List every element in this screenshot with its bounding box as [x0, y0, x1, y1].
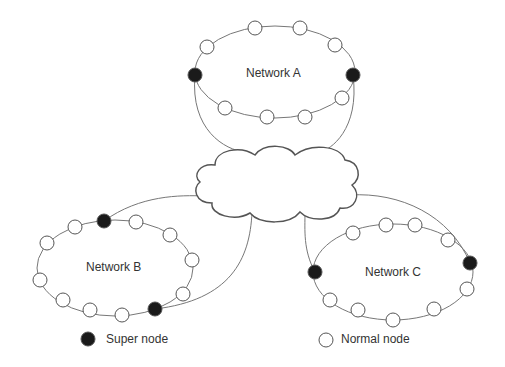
- internet-cloud: [196, 146, 358, 222]
- normal-node: [33, 273, 47, 287]
- super-node: [188, 68, 202, 82]
- super-node: [346, 68, 360, 82]
- normal-node: [248, 21, 262, 35]
- super-node: [97, 214, 111, 228]
- network-b-link: [104, 196, 205, 221]
- network-a-link: [195, 75, 245, 152]
- legend-normal-node-icon: [319, 333, 333, 347]
- super-node: [148, 302, 162, 316]
- normal-node: [298, 110, 312, 124]
- normal-node: [408, 218, 422, 232]
- legend-normal-node-label: Normal node: [341, 332, 410, 346]
- normal-node: [68, 220, 82, 234]
- normal-node: [40, 236, 54, 250]
- normal-node: [176, 287, 190, 301]
- normal-node: [379, 218, 393, 232]
- normal-node: [218, 101, 232, 115]
- legend-super-node-icon: [81, 332, 95, 346]
- normal-node: [351, 303, 365, 317]
- normal-node: [200, 40, 214, 54]
- normal-node: [185, 253, 199, 267]
- normal-node: [129, 215, 143, 229]
- normal-node: [335, 91, 349, 105]
- network-diagram: [0, 0, 505, 367]
- normal-node: [386, 313, 400, 327]
- normal-node: [260, 110, 274, 124]
- legend-super-node-label: Super node: [106, 332, 168, 346]
- normal-node: [323, 293, 337, 307]
- super-node: [308, 265, 322, 279]
- normal-node: [427, 302, 441, 316]
- network-c-link: [305, 212, 315, 272]
- normal-node: [293, 21, 307, 35]
- network-c-label: Network C: [365, 265, 421, 279]
- normal-node: [115, 308, 129, 322]
- normal-node: [56, 293, 70, 307]
- normal-node: [83, 303, 97, 317]
- network-a-link: [320, 75, 354, 152]
- normal-node: [346, 226, 360, 240]
- normal-node: [460, 282, 474, 296]
- super-node: [463, 256, 477, 270]
- network-a-label: Network A: [246, 66, 301, 80]
- network-b-label: Network B: [86, 260, 141, 274]
- normal-node: [328, 38, 342, 52]
- network-b-link: [155, 212, 252, 309]
- normal-node: [163, 228, 177, 242]
- normal-node: [441, 233, 455, 247]
